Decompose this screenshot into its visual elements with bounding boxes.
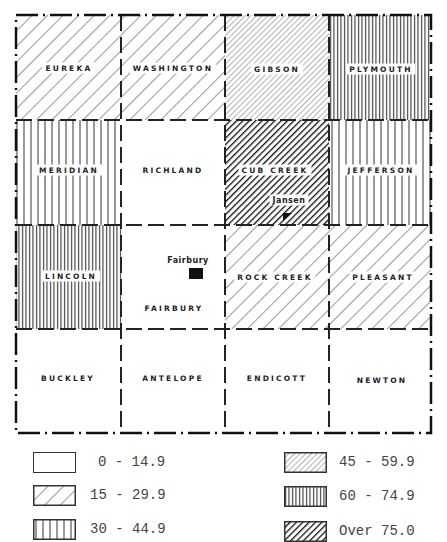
township-label-gibson: GIBSON: [251, 64, 303, 75]
legend-item-0-14-9: 0 - 14.9: [33, 451, 165, 473]
legend-swatch-dense-vertical: [284, 486, 327, 507]
township-label-rock-creek: ROCK CREEK: [234, 272, 315, 283]
township-label-newton: NEWTON: [354, 375, 411, 386]
township-label-plymouth: PLYMOUTH: [346, 64, 415, 75]
legend-item-30-44-9: 30 - 44.9: [33, 518, 166, 540]
legend-label: Over 75.0: [339, 523, 415, 539]
township-label-pleasant: PLEASANT: [349, 272, 416, 283]
legend-swatch-fine-diagonal: [284, 452, 327, 473]
legend-item-45-59-9: 45 - 59.9: [284, 451, 415, 473]
legend-swatch-heavy-diagonal: [284, 521, 327, 542]
legend-label: 0 - 14.9: [98, 454, 165, 470]
township-label-fairbury: FAIRBURY: [142, 303, 207, 314]
legend-label: 15 - 29.9: [90, 487, 166, 503]
township-label-cub-creek: CUB CREEK: [238, 165, 311, 176]
legend-label: 45 - 59.9: [339, 454, 415, 470]
legend-item-60-74-9: 60 - 74.9: [284, 485, 415, 507]
township-label-jefferson: JEFFERSON: [345, 165, 418, 176]
legend-item-15-29-9: 15 - 29.9: [33, 484, 166, 506]
township-label-buckley: BUCKLEY: [38, 373, 98, 384]
township-label-endicott: ENDICOTT: [244, 373, 310, 384]
legend-label: 60 - 74.9: [339, 488, 415, 504]
township-label-antelope: ANTELOPE: [139, 373, 206, 384]
legend-swatch-wide-vertical: [33, 519, 76, 540]
township-label-lincoln: LINCOLN: [42, 271, 100, 282]
fairbury-town-marker: [189, 268, 203, 279]
legend-item-over-75: Over 75.0: [284, 520, 415, 542]
town-label-jansen: Jansen: [270, 195, 309, 206]
legend-label: 30 - 44.9: [90, 521, 166, 537]
township-label-eureka: EUREKA: [43, 63, 96, 74]
town-label-fairbury: Fairbury: [164, 255, 212, 266]
township-label-meridian: MERIDIAN: [36, 165, 102, 176]
legend-swatch-wide-diagonal: [33, 485, 76, 506]
legend-swatch-empty: [33, 452, 76, 473]
township-label-richland: RICHLAND: [139, 165, 206, 176]
township-label-washington: WASHINGTON: [130, 63, 216, 74]
